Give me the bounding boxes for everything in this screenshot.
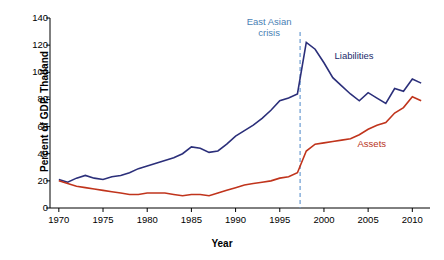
line-liabilities [59,42,421,182]
axis-ticks [46,18,412,212]
chart-container: Percent of GDP, Thailand Year 140 120 10… [0,0,444,260]
line-assets [59,97,421,196]
plot-area [0,0,444,260]
